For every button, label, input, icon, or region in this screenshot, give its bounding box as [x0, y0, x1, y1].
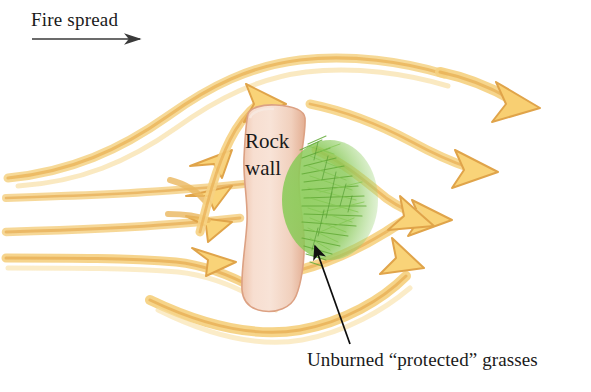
flow-band-top-right — [440, 72, 540, 122]
figure-container: Fire spread Rock wall Unburned “protecte… — [0, 0, 591, 392]
flow-band-top-outer — [8, 58, 448, 186]
rock-wall-label-line1: Rock — [245, 129, 289, 153]
flow-band-left-lower — [6, 258, 276, 310]
fire-spread-label: Fire spread — [31, 9, 118, 30]
caption-label: Unburned “protected” grasses — [307, 349, 538, 370]
rock-wall-label-line2: wall — [245, 157, 289, 181]
illustration-canvas — [0, 0, 591, 392]
rock-wall-label: Rock wall — [245, 130, 289, 180]
